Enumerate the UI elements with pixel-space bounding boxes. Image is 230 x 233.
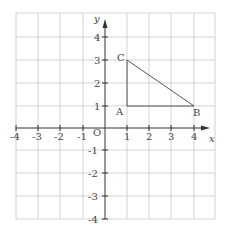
point-label-a: A [115, 106, 124, 117]
x-axis-label: x [209, 133, 215, 144]
y-tick-label: 3 [94, 55, 100, 66]
x-tick-label: -2 [54, 131, 64, 142]
x-tick-label: -3 [32, 131, 42, 142]
y-tick-label: -4 [88, 214, 98, 225]
point-label-c: C [117, 52, 125, 63]
x-tick-label: 1 [124, 131, 130, 142]
x-tick-label: 2 [146, 131, 152, 142]
y-tick-label: 1 [94, 101, 100, 112]
y-tick-label: 2 [94, 78, 100, 89]
y-tick-label: -2 [88, 168, 98, 179]
point-label-b: B [193, 107, 200, 118]
coordinate-plane: y x O -4 -3 -2 -1 1 2 3 4 4 3 2 1 -1 -2 … [0, 0, 230, 233]
x-axis-arrow-icon [201, 126, 210, 131]
x-tick-label: -4 [10, 131, 20, 142]
x-tick-label: 4 [191, 131, 197, 142]
y-axis-arrow-icon [103, 19, 108, 28]
x-tick-label: 3 [168, 131, 174, 142]
y-tick-label: -1 [88, 145, 98, 156]
x-tick-label: -1 [77, 131, 87, 142]
y-tick-label: 4 [94, 32, 100, 43]
origin-label: O [93, 127, 101, 138]
y-axis-label: y [93, 13, 100, 24]
y-tick-label: -3 [88, 191, 98, 202]
axes [16, 19, 210, 219]
